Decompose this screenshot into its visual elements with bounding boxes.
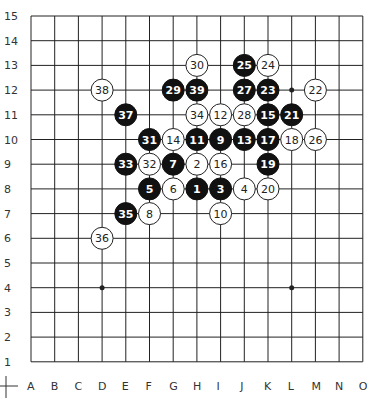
column-label: A <box>27 380 35 393</box>
stone-white: 36 <box>91 227 113 249</box>
column-label: B <box>51 380 59 393</box>
stone-white: 4 <box>233 178 255 200</box>
move-number: 21 <box>284 109 299 122</box>
stone-white: 28 <box>233 104 255 126</box>
move-number: 32 <box>143 158 157 171</box>
move-number: 37 <box>118 109 133 122</box>
stone-black: 11 <box>186 129 208 151</box>
stone-black: 21 <box>281 104 303 126</box>
stone-black: 19 <box>257 153 279 175</box>
stone-black: 27 <box>233 79 255 101</box>
row-label: 1 <box>4 356 11 369</box>
move-number: 31 <box>142 134 157 147</box>
row-label: 7 <box>4 208 11 221</box>
stone-black: 33 <box>115 153 137 175</box>
row-label: 11 <box>4 109 18 122</box>
row-label: 3 <box>4 306 11 319</box>
stone-black: 3 <box>210 178 232 200</box>
move-number: 5 <box>146 183 154 196</box>
move-number: 38 <box>95 84 109 97</box>
stone-white: 26 <box>304 129 326 151</box>
origin-cross-icon <box>0 376 18 398</box>
column-label: I <box>217 380 220 393</box>
star-point <box>289 88 294 93</box>
column-label: F <box>146 380 152 393</box>
move-number: 9 <box>217 134 225 147</box>
row-label: 8 <box>4 183 11 196</box>
move-number: 3 <box>217 183 225 196</box>
column-label: D <box>98 380 106 393</box>
move-number: 16 <box>214 158 228 171</box>
move-number: 36 <box>95 232 109 245</box>
row-label: 10 <box>4 134 18 147</box>
column-label: C <box>74 380 82 393</box>
move-number: 20 <box>261 183 275 196</box>
stone-white: 18 <box>281 129 303 151</box>
move-number: 19 <box>260 158 275 171</box>
move-number: 30 <box>190 59 204 72</box>
stone-white: 14 <box>162 129 184 151</box>
stone-white: 10 <box>210 203 232 225</box>
move-number: 14 <box>166 134 180 147</box>
go-board: 151413121110987654321 ABCDEFGHIJKLMNO 12… <box>0 0 376 403</box>
row-label: 4 <box>4 282 11 295</box>
stone-black: 1 <box>186 178 208 200</box>
stone-white: 32 <box>139 153 161 175</box>
move-number: 29 <box>166 84 181 97</box>
star-point <box>289 285 294 290</box>
move-number: 10 <box>214 208 228 221</box>
move-number: 34 <box>190 109 204 122</box>
stone-white: 34 <box>186 104 208 126</box>
move-number: 8 <box>146 208 153 221</box>
stone-black: 39 <box>186 79 208 101</box>
stone-black: 5 <box>139 178 161 200</box>
stone-white: 38 <box>91 79 113 101</box>
stone-white: 2 <box>186 153 208 175</box>
column-label: J <box>239 380 243 393</box>
move-number: 23 <box>260 84 275 97</box>
move-number: 4 <box>241 183 248 196</box>
stones-layer: 1234567891011121314151617181920212223242… <box>91 54 326 249</box>
stone-black: 25 <box>233 54 255 76</box>
move-number: 25 <box>237 59 252 72</box>
column-label: K <box>264 380 272 393</box>
move-number: 15 <box>260 109 275 122</box>
move-number: 11 <box>189 134 204 147</box>
stone-black: 13 <box>233 129 255 151</box>
row-label: 13 <box>4 59 18 72</box>
row-label: 12 <box>4 84 18 97</box>
row-label: 9 <box>4 158 11 171</box>
stone-black: 35 <box>115 203 137 225</box>
move-number: 1 <box>193 183 201 196</box>
stone-black: 17 <box>257 129 279 151</box>
column-labels: ABCDEFGHIJKLMNO <box>27 380 368 393</box>
row-label: 15 <box>4 10 18 23</box>
stone-white: 22 <box>304 79 326 101</box>
stone-white: 8 <box>139 203 161 225</box>
move-number: 26 <box>308 134 322 147</box>
column-label: N <box>335 380 343 393</box>
move-number: 39 <box>189 84 204 97</box>
move-number: 24 <box>261 59 275 72</box>
stone-white: 12 <box>210 104 232 126</box>
move-number: 7 <box>169 158 177 171</box>
move-number: 17 <box>260 134 275 147</box>
stone-black: 29 <box>162 79 184 101</box>
stone-black: 31 <box>139 129 161 151</box>
column-label: G <box>169 380 178 393</box>
move-number: 12 <box>214 109 228 122</box>
column-label: E <box>122 380 129 393</box>
move-number: 2 <box>193 158 200 171</box>
move-number: 33 <box>118 158 133 171</box>
column-label: L <box>288 380 295 393</box>
move-number: 18 <box>285 134 299 147</box>
move-number: 6 <box>170 183 177 196</box>
row-label: 2 <box>4 331 11 344</box>
stone-white: 30 <box>186 54 208 76</box>
stone-white: 24 <box>257 54 279 76</box>
stone-black: 7 <box>162 153 184 175</box>
move-number: 35 <box>118 208 133 221</box>
stone-white: 16 <box>210 153 232 175</box>
move-number: 13 <box>237 134 252 147</box>
row-label: 5 <box>4 257 11 270</box>
